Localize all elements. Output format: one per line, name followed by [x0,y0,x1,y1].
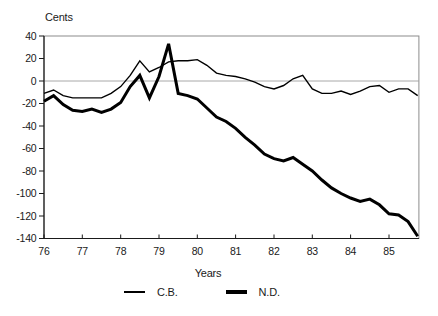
nd-line [44,44,418,236]
y-tick-label: -100 [16,187,37,199]
x-tick-label: 82 [268,245,280,257]
nd-legend-label: N.D. [259,286,280,298]
x-tick-label: 85 [383,245,395,257]
y-tick-label: 20 [25,52,37,64]
x-tick-label: 76 [38,245,50,257]
cb-line-swatch [124,291,145,293]
y-tick-label: -120 [16,210,37,222]
y-tick-label: -20 [22,97,37,109]
y-axis-title: Cents [45,11,73,23]
line-chart-figure: 40200-20-40-60-80-100-120-14076777879808… [0,0,438,316]
cb-legend-label: C.B. [157,286,178,298]
x-tick-label: 83 [307,245,319,257]
x-tick-label: 80 [192,245,204,257]
x-axis-title: Years [188,267,228,279]
x-tick-label: 77 [77,245,89,257]
y-tick-label: -60 [22,142,37,154]
plot-frame [44,36,419,239]
y-tick-label: 0 [31,75,37,87]
y-tick-label: 40 [25,30,37,42]
cb-line [44,60,418,98]
y-tick-label: -40 [22,120,37,132]
x-tick-label: 79 [153,245,165,257]
y-tick-label: -140 [16,232,37,244]
x-tick-label: 78 [115,245,127,257]
x-tick-label: 81 [230,245,242,257]
legend: C.B. N.D. [124,286,280,298]
x-tick-label: 84 [345,245,357,257]
nd-line-swatch [226,290,247,294]
y-tick-label: -80 [22,165,37,177]
